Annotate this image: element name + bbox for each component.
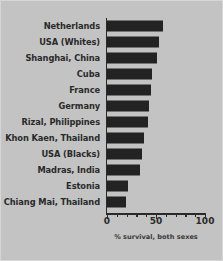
bar-category-label: Khon Kaen, Thailand <box>5 134 100 142</box>
bar-chiang-mai-thailand <box>107 196 126 207</box>
bar-row: Cuba <box>1 66 223 82</box>
bar-chart-plot-area: Netherlands USA (Whites) Shanghai, China… <box>1 1 223 261</box>
bar-madras-india <box>107 164 140 175</box>
bar-category-label: Cuba <box>77 70 100 78</box>
bar-category-label: USA (Whites) <box>39 38 100 46</box>
bar-netherlands <box>107 20 163 31</box>
bar-france <box>107 84 151 95</box>
bar-usa-blacks <box>107 148 142 159</box>
bar-row: Chiang Mai, Thailand <box>1 194 223 210</box>
bar-category-label: Netherlands <box>44 22 100 30</box>
bar-khon-kaen-thailand <box>107 132 144 143</box>
x-axis-tick-label: 0 <box>104 217 110 226</box>
x-axis-tick-label: 50 <box>150 217 163 226</box>
bar-category-label: USA (Blacks) <box>41 150 100 158</box>
bar-category-label: Estonia <box>66 182 100 190</box>
x-axis-minor-tick <box>185 213 186 217</box>
x-axis-tick-label: 100 <box>196 217 215 226</box>
x-axis-minor-tick <box>166 213 167 217</box>
x-axis-minor-tick <box>176 213 177 217</box>
bar-row: Estonia <box>1 178 223 194</box>
bar-shanghai-china <box>107 52 157 63</box>
bar-germany <box>107 100 149 111</box>
x-axis-title: % survival, both sexes <box>114 234 198 241</box>
x-axis-minor-tick <box>136 213 137 217</box>
x-axis-minor-tick <box>127 213 128 217</box>
bar-row: USA (Blacks) <box>1 146 223 162</box>
bar-row: Khon Kaen, Thailand <box>1 130 223 146</box>
bar-cuba <box>107 68 152 79</box>
bar-rizal-philippines <box>107 116 148 127</box>
bar-category-label: Rizal, Philippines <box>22 118 100 126</box>
chart-figure: Netherlands USA (Whites) Shanghai, China… <box>0 0 223 261</box>
x-axis-minor-tick <box>117 213 118 217</box>
bar-row: Netherlands <box>1 18 223 34</box>
bar-row: Germany <box>1 98 223 114</box>
bar-row: Madras, India <box>1 162 223 178</box>
bar-row: USA (Whites) <box>1 34 223 50</box>
bar-category-label: Chiang Mai, Thailand <box>4 198 100 206</box>
bar-category-label: Shanghai, China <box>25 54 100 62</box>
bar-category-label: Germany <box>59 102 100 110</box>
x-axis-minor-tick <box>146 213 147 217</box>
bar-estonia <box>107 180 128 191</box>
bar-row: Rizal, Philippines <box>1 114 223 130</box>
y-axis-line <box>106 18 108 213</box>
bar-usa-whites <box>107 36 159 47</box>
bar-row: Shanghai, China <box>1 50 223 66</box>
bar-category-label: Madras, India <box>37 166 100 174</box>
bar-category-label: France <box>69 86 100 94</box>
bar-row: France <box>1 82 223 98</box>
